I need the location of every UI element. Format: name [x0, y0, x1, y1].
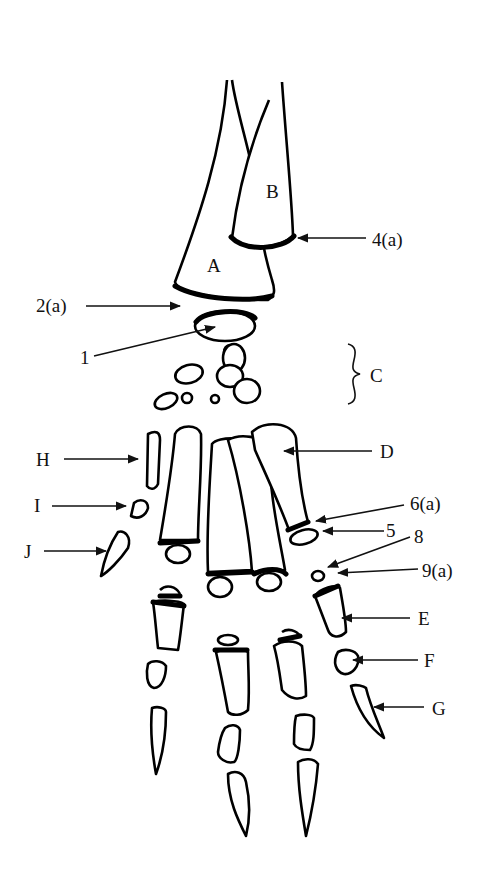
bone-f [335, 650, 358, 674]
arrow-1 [94, 327, 215, 356]
label-h: H [36, 449, 50, 470]
label-9a: 9(a) [422, 560, 453, 582]
bone-8 [312, 571, 324, 581]
arrow-8 [328, 537, 410, 567]
forelimb-bone-diagram: A B [0, 0, 482, 875]
small-bones-i-j [101, 500, 148, 576]
label-i: I [34, 495, 40, 516]
bone-g [351, 685, 384, 738]
label-4a: 4(a) [372, 229, 403, 251]
label-8: 8 [414, 526, 424, 547]
bone-i [131, 500, 148, 517]
label-6a: 6(a) [410, 493, 441, 515]
label-a: A [207, 255, 221, 276]
label-5: 5 [386, 520, 396, 541]
label-c: C [370, 365, 383, 386]
label-g: G [432, 698, 446, 719]
digit-middle-left [215, 635, 249, 836]
digit-right [312, 571, 384, 738]
arrow-6a [316, 505, 404, 521]
label-d: D [380, 441, 394, 462]
carpal-bones-c [152, 344, 260, 412]
label-f: F [424, 650, 435, 671]
arrow-9a [338, 569, 418, 573]
label-1: 1 [80, 347, 90, 368]
label-e: E [418, 608, 430, 629]
radial-epiphysis [195, 311, 255, 341]
digit-left [147, 587, 184, 774]
bracket-c [348, 344, 360, 404]
label-2a: 2(a) [36, 295, 67, 317]
bone-j [101, 532, 129, 576]
bone-h [147, 432, 160, 489]
digit-middle-right [274, 630, 318, 836]
label-b: B [266, 181, 279, 202]
label-j: J [24, 541, 31, 562]
